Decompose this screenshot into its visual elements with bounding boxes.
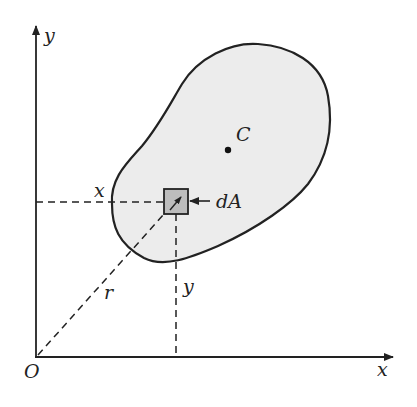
y-axis-label: y <box>43 24 55 46</box>
area-moment-diagram: y x O C dA x y r <box>0 0 417 407</box>
differential-element-dA <box>164 189 188 214</box>
x-axis-label: x <box>377 358 388 380</box>
origin-label: O <box>24 360 40 382</box>
planar-area-region <box>112 44 330 262</box>
centroid-label: C <box>236 123 251 145</box>
x-distance-label: x <box>94 179 105 201</box>
radius-dashed-line <box>38 214 164 355</box>
radius-label: r <box>104 281 115 303</box>
element-label: dA <box>216 190 242 212</box>
y-distance-label: y <box>182 275 194 297</box>
centroid-point <box>225 147 231 153</box>
